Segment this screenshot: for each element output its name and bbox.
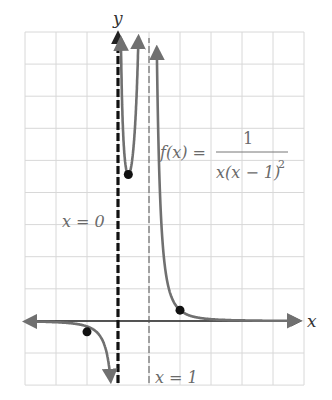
data-point [83,327,92,336]
function-graph: y x x = 0 x = 1 f(x) = 1 x(x − 1) 2 [0,0,332,400]
highlighted-points [83,170,185,336]
asymptote-x0-label: x = 0 [62,212,105,231]
function-lhs: f(x) = [159,143,206,162]
function-label: f(x) = 1 x(x − 1) 2 [159,129,288,182]
data-point [124,170,133,179]
asymptote-x1-label: x = 1 [155,368,198,387]
function-curve [25,37,299,381]
x-axis-label: x [307,311,317,331]
function-exponent: 2 [278,158,285,171]
y-axis-label: y [112,8,123,28]
function-numerator: 1 [243,129,253,148]
grid [25,32,304,385]
data-point [176,306,185,315]
function-denominator: x(x − 1) [216,163,280,182]
